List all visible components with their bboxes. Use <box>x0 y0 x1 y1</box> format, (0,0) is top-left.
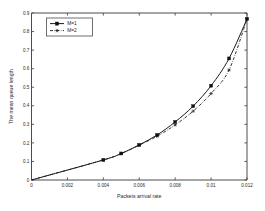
legend-sample-marker-0 <box>55 22 58 25</box>
data-point-marker <box>192 105 195 108</box>
y-tick-label: 0.2 <box>23 141 30 146</box>
legend-label-0: M=1 <box>67 21 77 26</box>
y-tick-label: 0.4 <box>23 103 30 108</box>
x-tick-label: 0 <box>30 183 33 188</box>
y-tick-label: 0.5 <box>23 85 30 90</box>
data-point-marker <box>210 84 213 87</box>
y-tick-label: 0.6 <box>23 66 30 71</box>
y-tick-label: 0.9 <box>23 11 30 16</box>
x-tick-label: 0.008 <box>169 183 181 188</box>
data-point-marker <box>174 120 177 123</box>
x-tick-label: 0.002 <box>62 183 74 188</box>
y-tick-label: 0.3 <box>23 122 30 127</box>
x-tick-label: 0.01 <box>207 183 216 188</box>
y-tick-label: 0.8 <box>23 29 30 34</box>
legend-label-1: M=2 <box>67 28 77 33</box>
x-tick-label: 0.012 <box>241 183 253 188</box>
series-line-M1 <box>32 19 248 180</box>
line-chart: 00.10.20.30.40.50.60.70.80.900.0020.0040… <box>0 0 265 211</box>
y-tick-label: 0.7 <box>23 48 30 53</box>
y-axis-title: The mean queue length <box>8 69 14 124</box>
series-line-M2 <box>32 19 248 180</box>
y-tick-label: 0.1 <box>23 159 30 164</box>
axes-frame <box>32 13 248 180</box>
x-tick-label: 0.006 <box>134 183 146 188</box>
x-axis-title: Packets arrival rate <box>117 193 162 199</box>
data-point-marker <box>228 57 231 60</box>
chart-figure: 00.10.20.30.40.50.60.70.80.900.0020.0040… <box>0 0 265 211</box>
data-point-marker <box>227 68 231 71</box>
x-tick-label: 0.004 <box>98 183 110 188</box>
